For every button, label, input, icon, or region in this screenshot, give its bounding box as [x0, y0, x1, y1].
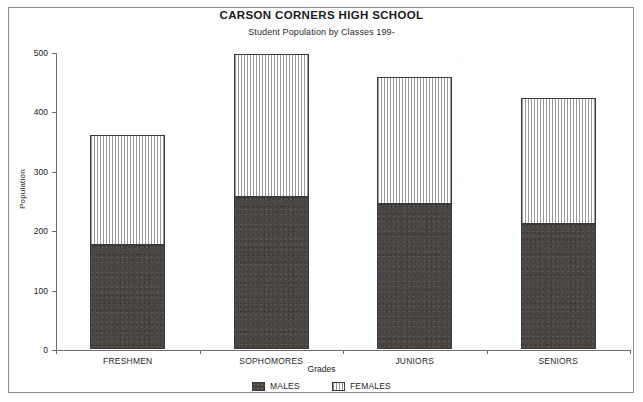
bar-segment-males — [377, 204, 452, 349]
stacked-bar — [234, 54, 309, 349]
stacked-bar — [377, 77, 452, 349]
y-tick-mark — [52, 291, 57, 292]
y-tick-mark — [52, 172, 57, 173]
plot-area: 0100200300400500 FRESHMENSOPHOMORESJUNIO… — [56, 53, 630, 350]
x-tick-mark — [56, 350, 57, 354]
chart-legend: MALESFEMALES — [0, 381, 643, 391]
y-tick-label: 300 — [34, 167, 48, 177]
x-tick-mark — [343, 350, 344, 354]
y-axis-title: Population — [18, 169, 27, 209]
y-tick-label: 100 — [34, 286, 48, 296]
chart-subtitle: Student Population by Classes 199- — [0, 27, 643, 37]
x-axis-title: Grades — [0, 364, 643, 374]
legend-item: FEMALES — [332, 381, 391, 391]
legend-item: MALES — [252, 381, 300, 391]
bar-segment-males — [234, 197, 309, 349]
bar-segment-females — [234, 54, 309, 197]
chart-title: CARSON CORNERS HIGH SCHOOL — [0, 9, 643, 21]
y-tick-label: 500 — [34, 48, 48, 58]
bar-segment-females — [377, 77, 452, 204]
y-tick-label: 0 — [43, 345, 48, 355]
bar-segment-females — [90, 135, 165, 245]
x-tick-mark — [630, 350, 631, 354]
y-tick-mark — [52, 53, 57, 54]
x-tick-mark — [487, 350, 488, 354]
stacked-bar — [521, 98, 596, 349]
legend-label: FEMALES — [350, 381, 391, 391]
y-tick-mark — [52, 231, 57, 232]
legend-label: MALES — [270, 381, 300, 391]
y-axis-line — [56, 53, 57, 351]
stacked-bar — [90, 135, 165, 349]
bar-segment-males — [90, 245, 165, 349]
legend-swatch-females — [332, 382, 345, 391]
y-tick-label: 400 — [34, 107, 48, 117]
x-tick-mark — [200, 350, 201, 354]
y-tick-mark — [52, 112, 57, 113]
y-tick-label: 200 — [34, 226, 48, 236]
bar-segment-males — [521, 224, 596, 349]
bar-segment-females — [521, 98, 596, 224]
legend-swatch-males — [252, 382, 265, 391]
